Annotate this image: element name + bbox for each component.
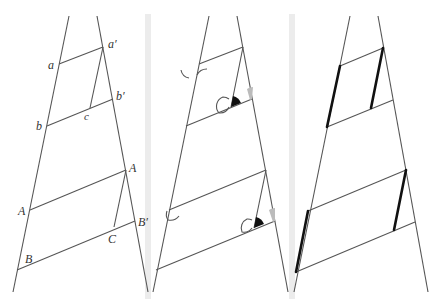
label-C: C — [108, 232, 117, 246]
similar-parallelograms-diagram: a a′ b b′ c A A B B′ C — [0, 0, 439, 299]
left-side-line — [13, 16, 69, 292]
angle-arc-lower-left — [168, 216, 179, 220]
right-side-line — [97, 16, 148, 292]
panel-separator-2 — [289, 14, 295, 299]
segment-a-a-prime — [59, 47, 103, 64]
label-c: c — [84, 110, 89, 122]
panel-1-labels: a a′ b b′ c A A B B′ C — [17, 37, 148, 266]
panel-angles — [153, 16, 288, 292]
segment-A-A — [30, 170, 126, 210]
label-a-prime: a′ — [108, 37, 117, 51]
bold-side-lower-right — [394, 170, 406, 230]
left-side-line — [294, 16, 350, 292]
upper-bottom-segment — [327, 100, 393, 127]
left-side-line — [153, 16, 209, 292]
panel-highlighted — [294, 16, 428, 292]
panel-separator-1 — [145, 14, 151, 299]
label-A-left: A — [17, 204, 26, 218]
angle-arc-lower-c — [241, 219, 252, 232]
label-b: b — [36, 119, 42, 133]
lower-bottom-segment — [156, 221, 275, 270]
grey-angle-wedge-lower — [269, 208, 275, 222]
segment-b-b-prime — [47, 99, 113, 126]
segment-a-prime-c — [90, 47, 103, 108]
panel-labeled — [13, 16, 148, 292]
angle-arc-lower-left-2 — [166, 211, 168, 220]
right-side-line — [378, 16, 428, 292]
panel-2-wedges — [231, 87, 275, 228]
upper-top-segment — [340, 48, 383, 66]
lower-top-segment — [169, 170, 266, 210]
bold-side-upper-right — [371, 48, 383, 108]
label-B: B — [25, 252, 33, 266]
segment-B-B-prime — [17, 221, 135, 270]
bold-side-lower-left — [296, 211, 308, 272]
bold-side-upper-left — [327, 66, 340, 127]
segment-A-C — [114, 170, 126, 227]
label-A-right: A — [128, 161, 137, 175]
label-a: a — [48, 58, 54, 72]
lower-top-segment — [308, 170, 406, 211]
lower-bottom-segment — [296, 222, 415, 272]
label-b-prime: b′ — [116, 89, 125, 103]
label-B-prime: B′ — [138, 215, 148, 229]
right-side-line — [237, 16, 288, 292]
upper-top-segment — [199, 47, 243, 64]
